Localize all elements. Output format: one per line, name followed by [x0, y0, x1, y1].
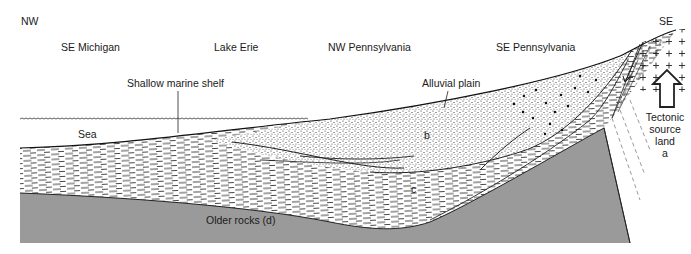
label-tectonic-source-land: Tectonic source land a	[643, 111, 687, 159]
label-shallow-marine-shelf: Shallow marine shelf	[127, 78, 224, 89]
label-sea: Sea	[78, 129, 97, 140]
region-lake-erie: Lake Erie	[214, 42, 258, 53]
tectonic-line-1: Tectonic	[643, 111, 687, 123]
region-se-pennsylvania: SE Pennsylvania	[496, 42, 575, 53]
direction-se: SE	[659, 16, 673, 27]
cross-section-diagram	[0, 0, 691, 254]
region-se-michigan: SE Michigan	[61, 42, 120, 53]
tectonic-line-3: land	[643, 135, 687, 147]
label-older-rocks-d: Older rocks (d)	[206, 215, 275, 226]
label-unit-b: b	[424, 130, 430, 141]
direction-nw: NW	[21, 16, 39, 27]
label-unit-c: c	[411, 184, 416, 195]
tectonic-line-4: a	[643, 147, 687, 159]
sea-surface	[20, 118, 308, 119]
region-nw-pennsylvania: NW Pennsylvania	[328, 42, 411, 53]
tectonic-line-2: source	[643, 123, 687, 135]
label-alluvial-plain: Alluvial plain	[422, 78, 480, 89]
